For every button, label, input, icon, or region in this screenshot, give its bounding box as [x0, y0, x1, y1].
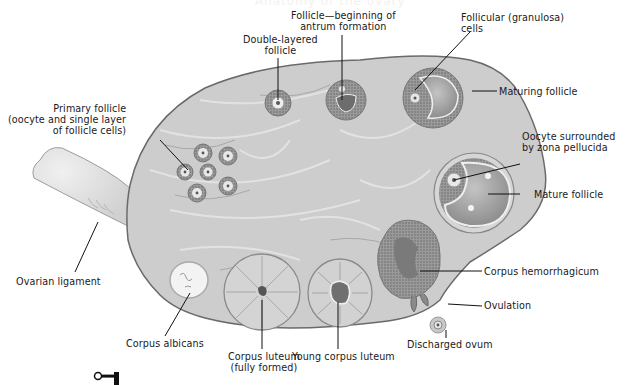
ovary-diagram: Anatomy of the ovary — [0, 0, 633, 385]
label-line: Follicle—beginning of — [291, 10, 396, 21]
label-line: cells — [461, 23, 564, 34]
label-antrum-formation: Follicle—beginning of antrum formation — [291, 10, 396, 32]
label-line: by zona pellucida — [522, 142, 616, 153]
label-corpus-hemorrhagicum: Corpus hemorrhagicum — [484, 266, 599, 277]
mature-follicle — [434, 153, 514, 233]
label-line: follicle — [243, 45, 318, 56]
label-maturing-follicle: Maturing follicle — [499, 86, 578, 97]
label-line: Primary follicle — [8, 103, 126, 114]
label-line: antrum formation — [291, 21, 396, 32]
label-line: Double-layered — [243, 34, 318, 45]
maturing-follicle — [403, 68, 463, 128]
label-corpus-luteum: Corpus luteum (fully formed) — [228, 351, 300, 373]
label-oocyte-zona: Oocyte surrounded by zona pellucida — [522, 131, 616, 153]
label-line: Corpus luteum — [228, 351, 300, 362]
label-primary-follicle: Primary follicle (oocyte and single laye… — [8, 103, 126, 136]
label-young-corpus-luteum: Young corpus luteum — [292, 351, 395, 362]
label-line: Follicular (granulosa) — [461, 12, 564, 23]
label-line: (oocyte and single layer — [8, 114, 126, 125]
ovarian-ligament — [33, 148, 130, 227]
label-double-layered-follicle: Double-layered follicle — [243, 34, 318, 56]
corpus-albicans — [170, 262, 208, 298]
key-icon — [95, 372, 120, 385]
label-line: (fully formed) — [228, 362, 300, 373]
label-mature-follicle: Mature follicle — [534, 189, 603, 200]
label-line: of follicle cells) — [8, 125, 126, 136]
label-granulosa-cells: Follicular (granulosa) cells — [461, 12, 564, 34]
label-ovarian-ligament: Ovarian ligament — [16, 276, 101, 287]
label-line: Oocyte surrounded — [522, 131, 616, 142]
discharged-ovum — [430, 317, 446, 333]
label-corpus-albicans: Corpus albicans — [126, 338, 204, 349]
label-ovulation: Ovulation — [484, 300, 531, 311]
antrum-formation-follicle — [326, 80, 366, 120]
label-discharged-ovum: Discharged ovum — [407, 339, 493, 350]
young-corpus-luteum — [308, 259, 372, 327]
